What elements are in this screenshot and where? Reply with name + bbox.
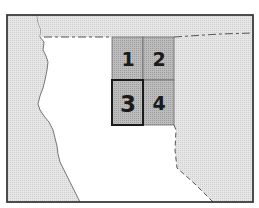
grid-label-3: 3 <box>120 91 136 117</box>
map-grid: 1 2 3 4 <box>112 37 174 125</box>
grid-label-2: 2 <box>152 48 165 70</box>
locator-map: 1 2 3 4 <box>0 0 259 208</box>
grid-label-1: 1 <box>121 48 134 70</box>
grid-label-4: 4 <box>152 92 165 114</box>
